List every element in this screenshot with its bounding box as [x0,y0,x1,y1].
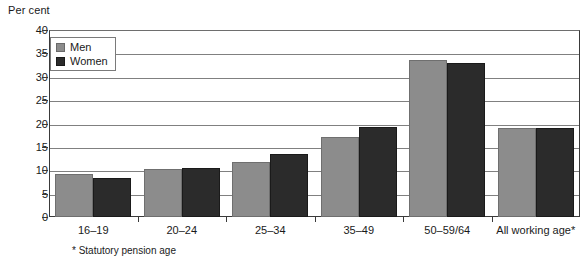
bar-men-5 [498,128,536,217]
legend-item-women: Women [56,55,108,67]
legend-label: Men [70,41,91,53]
x-axis-label: 35–49 [343,224,374,236]
x-axis-tick-marks [49,217,580,223]
bar-group [144,30,220,217]
bar-women-1 [182,168,220,217]
x-axis-tick-mark [492,217,493,222]
x-axis-tick-mark [403,217,404,222]
y-axis-tick-mark [42,30,48,31]
y-axis-tick-mark [42,100,48,101]
bar-chart: Per cent 0510152025303540 16–1920–2425–3… [0,0,588,266]
x-axis-label: 16–19 [78,224,109,236]
chart-footnote: * Statutory pension age [72,245,176,256]
bar-group [232,30,308,217]
legend-item-men: Men [56,41,108,53]
bar-group [321,30,397,217]
bar-women-2 [270,154,308,217]
y-axis-tick-mark [42,194,48,195]
y-axis-tick-mark [42,147,48,148]
x-axis-label: All working age* [496,224,575,236]
bar-group [409,30,485,217]
y-axis-tick-mark [42,77,48,78]
legend-swatch-icon [56,43,65,52]
bar-men-0 [55,174,93,217]
bar-women-3 [359,127,397,217]
chart-legend: MenWomen [50,37,116,71]
x-axis-label: 25–34 [255,224,286,236]
legend-swatch-icon [56,57,65,66]
bar-women-0 [93,178,131,217]
x-axis-label: 20–24 [166,224,197,236]
x-axis-tick-mark [315,217,316,222]
legend-label: Women [70,55,108,67]
bar-women-5 [536,128,574,217]
y-axis-tick-labels: 0510152025303540 [0,0,48,266]
bar-women-4 [447,63,485,217]
bar-men-2 [232,162,270,217]
x-axis-category-labels: 16–1920–2425–3435–4950–59/64All working … [49,224,580,242]
x-axis-tick-mark [138,217,139,222]
y-axis-tick-mark [42,53,48,54]
bar-men-1 [144,169,182,217]
x-axis-tick-mark [226,217,227,222]
y-axis-tick-mark [42,124,48,125]
y-axis-tick-mark [42,170,48,171]
bar-group [498,30,574,217]
y-axis-tick-mark [42,217,48,218]
bar-men-4 [409,60,447,217]
bar-men-3 [321,137,359,217]
x-axis-label: 50–59/64 [424,224,470,236]
bars-layer [49,30,580,217]
